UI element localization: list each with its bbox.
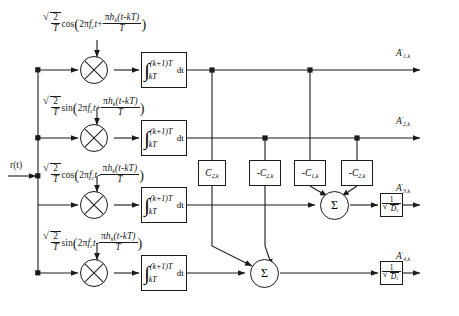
coefficient-box-c2k-negative-a: -C2,k [249, 160, 281, 186]
junction-bus-2 [35, 135, 40, 140]
input-label: r(t) [10, 160, 22, 170]
output-label-3: A′3,k [396, 183, 410, 194]
summer-lower: Σ [250, 259, 279, 288]
summer-upper: Σ [320, 191, 349, 220]
carrier-expression-2: 2Tsin(2πfct+πhk(t-kT)T) [44, 96, 145, 117]
wire-c1-to-lower-sum [212, 186, 252, 266]
junction-bus-1 [35, 67, 40, 72]
junction-row1-c1 [209, 67, 214, 72]
carrier-expression-1: 2Tcos(2πfct+πhk(t-kT)T) [44, 12, 146, 33]
coefficient-box-c2k-negative-b: -C2,k [341, 160, 373, 186]
junction-bus-4 [35, 270, 40, 275]
multiplier-4 [80, 259, 108, 287]
integrator-3: ∫(k+1)TkTdt [141, 187, 187, 223]
junction-row2-c2 [262, 135, 267, 140]
multiplier-1 [80, 56, 108, 84]
output-label-1: A′1,k [396, 48, 410, 59]
carrier-expression-3: 2Tcos(2πfct-πhk(t-kT)T) [44, 163, 144, 184]
integrator-1: ∫(k+1)TkTdt [141, 52, 187, 88]
coefficient-box-c2k-positive: C2,k [198, 160, 226, 186]
block-diagram: r(t) 2Tcos(2πfct+πhk(t-kT)T) 2Tsin(2πfct… [0, 0, 459, 316]
output-label-2: A′2,k [396, 116, 410, 127]
coefficient-box-c1k-negative: -C1,k [294, 160, 326, 186]
integrator-2: ∫(k+1)TkTdt [141, 120, 187, 156]
junction-row2-c4 [354, 135, 359, 140]
gain-block-upper: 1D1 [380, 193, 403, 217]
integrator-4: ∫(k+1)TkTdt [141, 255, 187, 291]
output-label-4: A′4,k [396, 251, 410, 262]
junction-input [35, 173, 40, 178]
multiplier-2 [80, 124, 108, 152]
wire-c2-to-lower-sum [265, 186, 272, 266]
carrier-expression-4: 2Tsin(2πfct-πhk(t-kT)T) [44, 231, 142, 252]
gain-block-lower: 1D1 [380, 261, 403, 285]
multiplier-3 [80, 191, 108, 219]
junction-row1-c3 [307, 67, 312, 72]
